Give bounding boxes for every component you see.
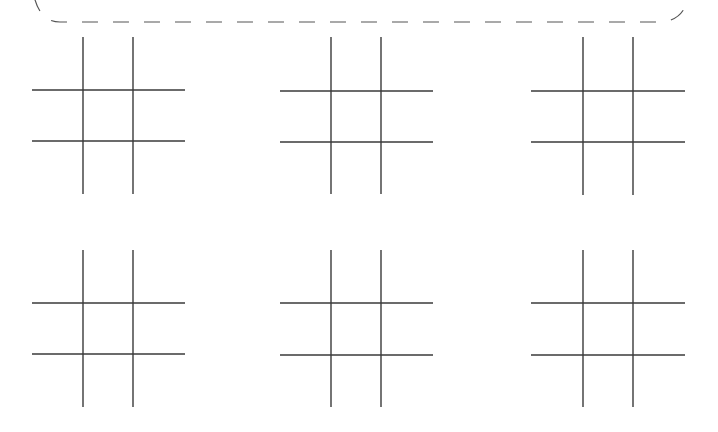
board-3-cell-r1c3[interactable]: [633, 37, 685, 91]
boards-group: [32, 37, 685, 407]
board-6-cell-r3c1[interactable]: [531, 355, 583, 407]
board-5-cell-r1c2[interactable]: [331, 250, 381, 303]
board-1-cell-r1c1[interactable]: [32, 37, 83, 90]
board-3-cell-r2c1[interactable]: [531, 91, 583, 142]
board-1-cell-r2c2[interactable]: [83, 90, 133, 141]
board-3-cell-r2c2[interactable]: [583, 91, 633, 142]
board-1-cell-r3c2[interactable]: [83, 141, 133, 194]
tic-tac-toe-board: [531, 250, 685, 407]
board-4-cell-r1c2[interactable]: [83, 250, 133, 303]
board-4-cell-r1c3[interactable]: [133, 250, 185, 303]
board-5-cell-r3c2[interactable]: [331, 355, 381, 407]
board-4-cell-r1c1[interactable]: [32, 250, 83, 303]
board-3-cell-r3c3[interactable]: [633, 142, 685, 195]
board-3-cell-r2c3[interactable]: [633, 91, 685, 142]
board-4-cell-r3c2[interactable]: [83, 354, 133, 407]
board-2-cell-r2c2[interactable]: [331, 91, 381, 142]
board-6-cell-r2c3[interactable]: [633, 303, 685, 355]
boards-canvas: [0, 0, 718, 432]
board-4-cell-r2c1[interactable]: [32, 303, 83, 354]
board-6-cell-r2c1[interactable]: [531, 303, 583, 355]
board-5-cell-r3c3[interactable]: [381, 355, 433, 407]
tic-tac-toe-worksheet: [0, 0, 718, 432]
board-5-cell-r2c2[interactable]: [331, 303, 381, 355]
board-5-cell-r3c1[interactable]: [280, 355, 331, 407]
dashed-rounded-border: [34, 0, 688, 22]
board-6-cell-r3c2[interactable]: [583, 355, 633, 407]
board-2-cell-r2c1[interactable]: [280, 91, 331, 142]
board-5-cell-r1c1[interactable]: [280, 250, 331, 303]
board-4-cell-r3c3[interactable]: [133, 354, 185, 407]
board-6-cell-r1c2[interactable]: [583, 250, 633, 303]
tic-tac-toe-board: [280, 250, 433, 407]
tic-tac-toe-board: [32, 250, 185, 407]
board-1-cell-r1c3[interactable]: [133, 37, 185, 90]
board-2-cell-r3c2[interactable]: [331, 142, 381, 194]
board-4-cell-r3c1[interactable]: [32, 354, 83, 407]
board-1-cell-r1c2[interactable]: [83, 37, 133, 90]
board-6-cell-r1c1[interactable]: [531, 250, 583, 303]
board-3-cell-r3c1[interactable]: [531, 142, 583, 195]
board-2-cell-r1c3[interactable]: [381, 37, 433, 91]
board-3-cell-r1c2[interactable]: [583, 37, 633, 91]
board-1-cell-r2c3[interactable]: [133, 90, 185, 141]
board-2-cell-r2c3[interactable]: [381, 91, 433, 142]
board-1-cell-r2c1[interactable]: [32, 90, 83, 141]
board-6-cell-r3c3[interactable]: [633, 355, 685, 407]
board-1-cell-r3c3[interactable]: [133, 141, 185, 194]
tic-tac-toe-board: [32, 37, 185, 194]
tic-tac-toe-board: [531, 37, 685, 195]
board-1-cell-r3c1[interactable]: [32, 141, 83, 194]
board-2-cell-r1c1[interactable]: [280, 37, 331, 91]
board-5-cell-r2c1[interactable]: [280, 303, 331, 355]
board-4-cell-r2c2[interactable]: [83, 303, 133, 354]
board-2-cell-r3c3[interactable]: [381, 142, 433, 194]
board-3-cell-r1c1[interactable]: [531, 37, 583, 91]
board-2-cell-r3c1[interactable]: [280, 142, 331, 194]
board-3-cell-r3c2[interactable]: [583, 142, 633, 195]
board-5-cell-r1c3[interactable]: [381, 250, 433, 303]
board-6-cell-r1c3[interactable]: [633, 250, 685, 303]
board-4-cell-r2c3[interactable]: [133, 303, 185, 354]
board-5-cell-r2c3[interactable]: [381, 303, 433, 355]
board-2-cell-r1c2[interactable]: [331, 37, 381, 91]
board-6-cell-r2c2[interactable]: [583, 303, 633, 355]
tic-tac-toe-board: [280, 37, 433, 194]
